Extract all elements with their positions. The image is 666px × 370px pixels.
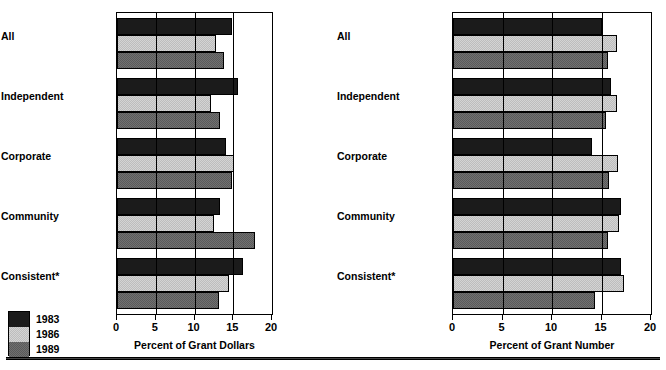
gridline-10	[195, 13, 196, 314]
legend-swatch-1989	[9, 342, 29, 357]
category-label: Community	[337, 211, 447, 222]
chart-panel-grant-dollars: AllIndependentCorporateCommunityConsiste…	[0, 0, 340, 345]
bar-1986	[453, 275, 624, 292]
legend-label-1983: 1983	[36, 314, 59, 325]
footer-divider	[6, 357, 660, 360]
x-tick-label: 15	[594, 321, 606, 333]
category-label: Independent	[337, 91, 447, 102]
x-tick	[155, 315, 156, 320]
x-tick-label: 5	[152, 321, 158, 333]
bar-1986	[117, 215, 214, 232]
plot-area-grant-dollars: AllIndependentCorporateCommunityConsiste…	[116, 12, 273, 315]
bar-1989	[453, 172, 609, 189]
bar-1983	[117, 78, 238, 95]
category-label: Corporate	[1, 151, 111, 162]
bar-1986	[453, 35, 617, 52]
bar-1983	[453, 138, 592, 155]
x-tick	[232, 315, 233, 320]
bar-1989	[117, 112, 220, 129]
x-tick	[551, 315, 552, 320]
bar-1983	[453, 258, 621, 275]
bar-1989	[117, 292, 219, 309]
category-label: Corporate	[337, 151, 447, 162]
gridline-5	[503, 13, 504, 314]
bar-1989	[453, 112, 606, 129]
category-label: Consistent*	[337, 271, 447, 282]
bar-1983	[453, 78, 611, 95]
category-label: Independent	[1, 91, 111, 102]
gridline-15	[602, 13, 603, 314]
x-tick-label: 15	[226, 321, 238, 333]
bar-1986	[453, 215, 619, 232]
bar-1989	[453, 232, 608, 249]
gridline-10	[552, 13, 553, 314]
x-tick-label: 10	[187, 321, 199, 333]
category-label: Community	[1, 211, 111, 222]
bar-1989	[117, 52, 224, 69]
x-tick	[650, 315, 651, 320]
gridline-5	[156, 13, 157, 314]
bar-1989	[117, 172, 232, 189]
x-tick	[601, 315, 602, 320]
bar-1983	[453, 198, 621, 215]
x-tick-label: 10	[545, 321, 557, 333]
x-axis-title-grant-dollars: Percent of Grant Dollars	[116, 339, 273, 351]
bar-1989	[453, 52, 608, 69]
legend-swatch-1983	[9, 312, 29, 327]
bar-1986	[117, 155, 234, 172]
gridline-15	[233, 13, 234, 314]
x-tick-label: 0	[113, 321, 119, 333]
x-tick-label: 5	[498, 321, 504, 333]
x-tick	[452, 315, 453, 320]
bar-1986	[117, 275, 229, 292]
x-tick-label: 20	[265, 321, 277, 333]
bar-1986	[453, 95, 617, 112]
bar-1989	[453, 292, 595, 309]
bar-1983	[453, 18, 602, 35]
category-label: Consistent*	[1, 271, 111, 282]
chart-panel-grant-number: AllIndependentCorporateCommunityConsiste…	[336, 0, 666, 345]
x-tick	[116, 315, 117, 320]
category-label: All	[337, 31, 447, 42]
bar-1986	[453, 155, 618, 172]
x-tick-label: 20	[644, 321, 656, 333]
figure-root: AllIndependentCorporateCommunityConsiste…	[0, 0, 666, 370]
bar-1986	[117, 95, 211, 112]
bar-1983	[117, 138, 226, 155]
category-label: All	[1, 31, 111, 42]
x-axis-title-grant-number: Percent of Grant Number	[452, 339, 652, 351]
legend-swatch-box	[8, 311, 30, 356]
x-tick	[271, 315, 272, 320]
legend-swatch-1986	[9, 327, 29, 342]
bar-1983	[117, 18, 232, 35]
legend-label-1986: 1986	[36, 329, 59, 340]
x-tick	[194, 315, 195, 320]
x-tick-label: 0	[449, 321, 455, 333]
bar-1983	[117, 258, 243, 275]
plot-area-grant-number: AllIndependentCorporateCommunityConsiste…	[452, 12, 652, 315]
bar-1983	[117, 198, 220, 215]
x-tick	[502, 315, 503, 320]
legend-label-1989: 1989	[36, 344, 59, 355]
bar-1986	[117, 35, 216, 52]
